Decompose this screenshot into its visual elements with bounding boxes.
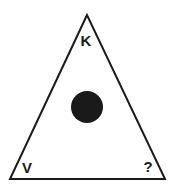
center-dot bbox=[71, 91, 103, 123]
label-bottom-right: ? bbox=[143, 158, 152, 175]
triangle-diagram: K V ? bbox=[0, 0, 178, 189]
label-bottom-left: V bbox=[22, 159, 32, 176]
label-top: K bbox=[81, 32, 92, 49]
